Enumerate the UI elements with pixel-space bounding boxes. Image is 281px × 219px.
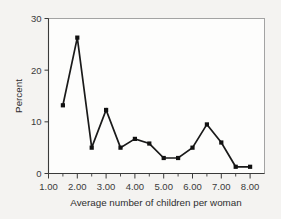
line-chart: 0102030 1.002.003.004.005.006.007.008.00… bbox=[0, 0, 281, 219]
x-tick-label: 2.00 bbox=[68, 181, 87, 192]
y-tick-label: 10 bbox=[31, 116, 42, 127]
x-tick-label: 4.00 bbox=[126, 181, 145, 192]
chart-figure: 0102030 1.002.003.004.005.006.007.008.00… bbox=[0, 0, 281, 219]
x-tick-label: 8.00 bbox=[241, 181, 260, 192]
x-axis-title: Average number of children per woman bbox=[70, 197, 241, 208]
y-tick-label: 0 bbox=[36, 168, 41, 179]
data-point-marker bbox=[205, 122, 209, 126]
x-tick-label: 7.00 bbox=[212, 181, 231, 192]
data-point-marker bbox=[61, 103, 65, 107]
data-point-marker bbox=[75, 36, 79, 40]
data-point-marker bbox=[190, 146, 194, 150]
y-tick-label: 30 bbox=[31, 13, 42, 24]
y-tick-label: 20 bbox=[31, 65, 42, 76]
data-point-marker bbox=[234, 165, 238, 169]
x-tick-label: 6.00 bbox=[183, 181, 202, 192]
data-point-marker bbox=[147, 141, 151, 145]
x-tick-label: 5.00 bbox=[154, 181, 173, 192]
x-tick-label: 1.00 bbox=[39, 181, 58, 192]
data-point-marker bbox=[90, 146, 94, 150]
y-axis-title: Percent bbox=[13, 79, 24, 113]
data-point-marker bbox=[118, 146, 122, 150]
data-point-marker bbox=[176, 156, 180, 160]
data-point-marker bbox=[104, 108, 108, 112]
data-point-marker bbox=[162, 156, 166, 160]
data-point-marker bbox=[248, 165, 252, 169]
data-point-marker bbox=[219, 140, 223, 144]
x-tick-label: 3.00 bbox=[97, 181, 116, 192]
data-point-marker bbox=[133, 137, 137, 141]
